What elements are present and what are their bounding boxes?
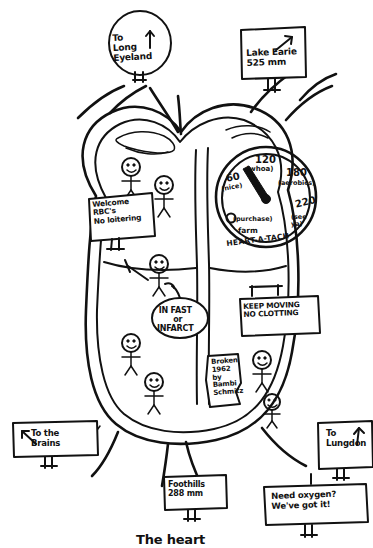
gauge-needle-hub bbox=[262, 195, 271, 204]
valve-plane-right bbox=[210, 266, 286, 272]
sign-lake-earie-text: Lake Earie 525 mm bbox=[246, 46, 297, 68]
sign-to-brains-text: To the Brains bbox=[31, 429, 60, 448]
sign-need-oxygen-text: Need oxygen? We've got it! bbox=[271, 490, 337, 511]
stick-figure-lower-left bbox=[122, 334, 140, 375]
gauge-label-120: 120 bbox=[255, 155, 276, 166]
sign-in-fast-infarct-text: IN FAST or INFARCT bbox=[157, 307, 194, 334]
stick-figure-upper-left-a bbox=[122, 158, 140, 199]
sign-welcome-rbc-text: Welcome RBC's No loitering bbox=[92, 197, 142, 226]
sign-keep-moving-text: KEEP MOVING NO CLOTTING bbox=[243, 301, 300, 320]
sign-broken-1962-text: Broken 1962 by Bambi Schmitz bbox=[211, 357, 244, 398]
stick-figure-lower-right bbox=[253, 351, 271, 392]
chamber-detail-upper-right-2 bbox=[232, 134, 268, 139]
vessel-bottom-right bbox=[262, 428, 306, 466]
gauge-note-0: (purchase) bbox=[233, 216, 273, 223]
sign-long-eyeland-text: To Long Eyeland bbox=[112, 31, 152, 63]
figure-caption: The heart bbox=[136, 533, 205, 548]
gauge-note-180: (aerobics) bbox=[278, 180, 315, 187]
septum-vertical bbox=[195, 150, 197, 404]
gauge-note-0-sub: farm bbox=[238, 227, 258, 235]
sign-to-lungdon-text: To Lungdon bbox=[326, 429, 366, 448]
gauge-note-220: (see ya) bbox=[291, 214, 307, 228]
stick-figure-miner bbox=[125, 255, 168, 296]
stick-figure-upper-left-b bbox=[155, 176, 173, 217]
chamber-detail-upper-left bbox=[116, 132, 175, 153]
sign-foothills-text: Foothills 288 mm bbox=[168, 481, 205, 499]
heart-cartoon-illustration bbox=[0, 0, 373, 548]
stick-figure-lower-left-b bbox=[145, 373, 163, 414]
gauge-label-180: 180 bbox=[286, 168, 307, 179]
vessel-left-branch bbox=[78, 86, 124, 118]
drawing-canvas: To Long Eyeland Lake Earie 525 mm Welcom… bbox=[0, 0, 373, 548]
gauge-note-120: (whoa) bbox=[246, 166, 273, 173]
